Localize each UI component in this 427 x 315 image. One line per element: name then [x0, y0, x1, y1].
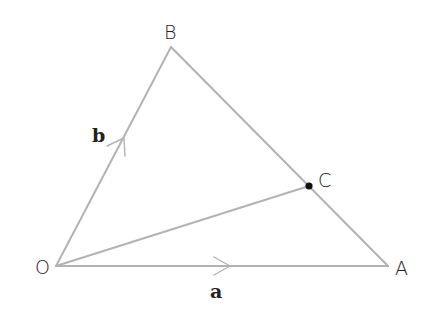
segment-OC	[56, 186, 309, 266]
label-vector-b: b	[92, 124, 105, 146]
segment-OB	[56, 47, 171, 266]
label-point-C: C	[318, 169, 331, 191]
label-point-A: A	[395, 257, 408, 279]
label-point-B: B	[164, 21, 176, 43]
point-C-marker	[305, 182, 312, 189]
label-vector-a: a	[210, 280, 222, 302]
label-point-O: O	[35, 256, 50, 278]
segment-AB	[171, 47, 388, 266]
vector-diagram: B O A C b a	[0, 0, 427, 315]
diagram-svg: B O A C b a	[0, 0, 427, 315]
